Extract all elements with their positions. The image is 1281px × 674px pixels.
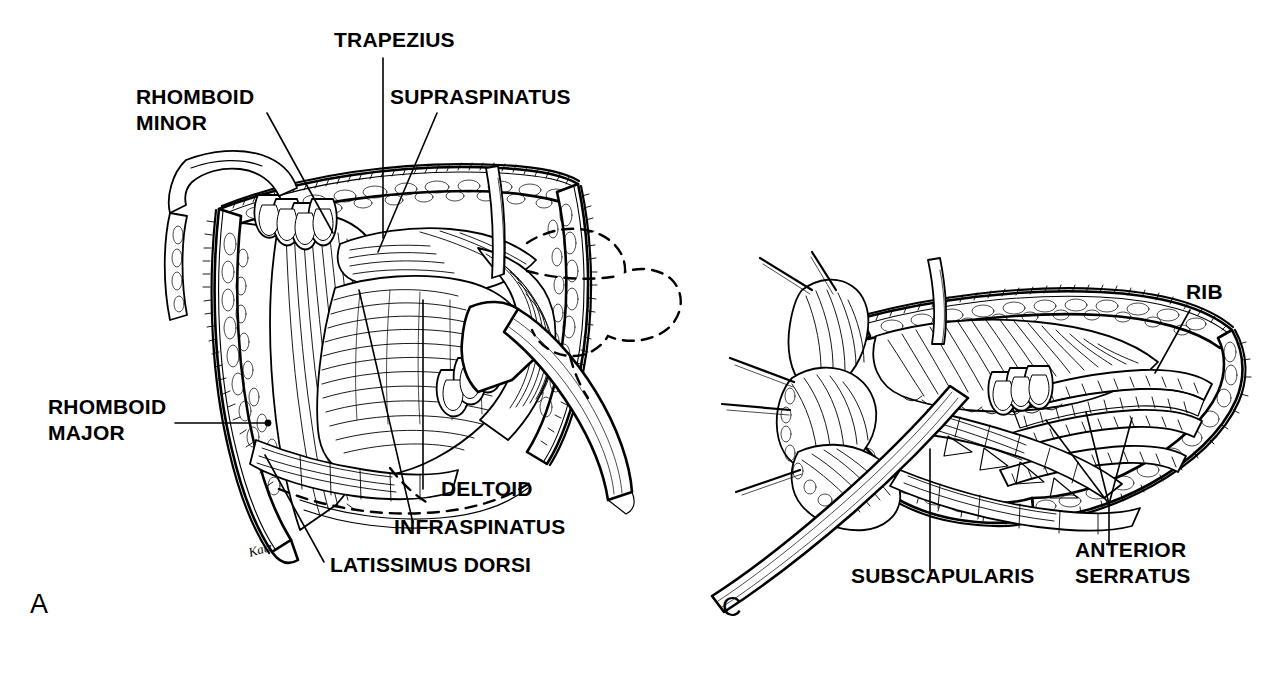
label-rhomboid-major-line1: RHOMBOID <box>48 395 166 418</box>
anatomical-illustration: Katz <box>0 0 1281 674</box>
figure-root: Katz <box>0 0 1281 674</box>
label-rhomboid-minor-line1: RHOMBOID <box>136 85 254 108</box>
label-deltoid: DELTOID <box>441 477 533 500</box>
panel-letter-c: C <box>722 592 742 622</box>
label-rhomboid-minor-line2: MINOR <box>136 111 207 134</box>
label-anterior-serratus-line2: SERRATUS <box>1075 564 1191 587</box>
panel-letter-a: A <box>30 589 48 619</box>
leader-dot-rhomboid-major <box>265 420 272 427</box>
label-supraspinatus: SUPRASPINATUS <box>390 85 571 108</box>
label-latissimus-dorsi: LATISSIMUS DORSI <box>330 553 531 576</box>
label-anterior-serratus-line1: ANTERIOR <box>1075 538 1186 561</box>
label-rhomboid-major-line2: MAJOR <box>48 421 125 444</box>
label-rib: RIB <box>1186 280 1223 303</box>
label-trapezius: TRAPEZIUS <box>334 28 455 51</box>
label-infraspinatus: INFRASPINATUS <box>394 515 565 538</box>
label-subscapularis: SUBSCAPULARIS <box>851 564 1034 587</box>
c-retractor-prongs[interactable] <box>988 366 1052 415</box>
